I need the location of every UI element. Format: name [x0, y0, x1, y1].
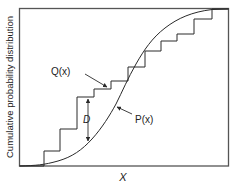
d-label: D — [83, 114, 90, 125]
x-axis-label: X — [118, 171, 127, 183]
ks-test-chart: D Q(x) P(x) X Cumulative probability dis… — [0, 0, 237, 189]
p-cdf-curve — [20, 9, 229, 166]
q-pointer-arrow — [85, 74, 107, 87]
q-label: Q(x) — [51, 66, 70, 77]
p-pointer-arrow — [117, 107, 132, 114]
p-label: P(x) — [135, 114, 153, 125]
y-axis-label: Cumulative probability distribution — [4, 16, 15, 158]
